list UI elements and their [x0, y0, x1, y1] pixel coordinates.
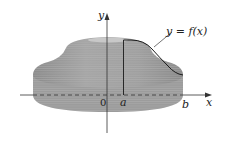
origin-label: 0 [100, 97, 106, 108]
solid-body [33, 37, 183, 112]
x-axis-label: x [206, 96, 213, 109]
curve-label: y = f(x) [165, 25, 207, 38]
y-axis-arrow-icon [105, 13, 110, 20]
solid-of-revolution-diagram: y y = f(x) 0 a b x [0, 0, 225, 142]
y-axis-label: y [97, 9, 105, 22]
a-label: a [120, 96, 127, 109]
top-highlight [88, 38, 128, 43]
b-label: b [182, 98, 189, 111]
